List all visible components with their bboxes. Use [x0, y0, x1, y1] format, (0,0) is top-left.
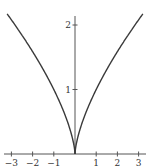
x-tick-label: −3: [5, 158, 19, 167]
curve-right-branch: [75, 14, 143, 154]
x-tick-label: 1: [93, 158, 99, 167]
x-tick-label: 2: [115, 158, 121, 167]
x-tick-label: −1: [47, 158, 60, 167]
axes: [4, 16, 146, 157]
chart: −3−2−112312: [0, 0, 148, 167]
x-tick-label: −2: [26, 158, 39, 167]
y-tick-label: 2: [65, 20, 71, 30]
x-tick-label: 3: [136, 158, 142, 167]
y-tick-label: 1: [65, 85, 71, 95]
